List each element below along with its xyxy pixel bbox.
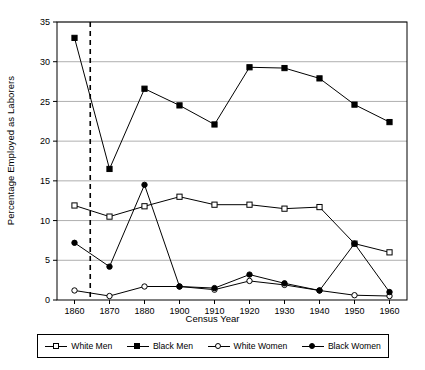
data-point: [247, 202, 252, 207]
series-line: [75, 185, 390, 292]
data-point: [247, 272, 252, 277]
legend-label-black-women: Black Women: [326, 341, 381, 351]
data-point: [317, 204, 322, 209]
legend-item-white-women: White Women: [208, 341, 288, 351]
data-point: [107, 293, 112, 298]
data-point: [352, 102, 357, 107]
data-point: [212, 202, 217, 207]
plot-frame: [57, 22, 407, 300]
y-tick-label: 15: [40, 176, 50, 186]
data-point: [107, 264, 112, 269]
legend-item-black-women: Black Women: [302, 341, 381, 351]
legend-marker-open-square-icon: [45, 341, 67, 351]
y-tick-label: 10: [40, 216, 50, 226]
data-point: [212, 285, 217, 290]
plot-area: 0510152025303518601870188019001910192019…: [0, 0, 425, 330]
data-point: [142, 204, 147, 209]
data-point: [72, 288, 77, 293]
chart-legend: White Men Black Men White Women Black Wo…: [37, 334, 389, 358]
y-tick-label: 5: [45, 255, 50, 265]
data-point: [142, 284, 147, 289]
data-point: [317, 76, 322, 81]
data-point: [142, 182, 147, 187]
chart-figure: Percentage Employed as Laborers 05101520…: [0, 0, 425, 370]
data-point: [177, 103, 182, 108]
y-tick-label: 25: [40, 97, 50, 107]
data-point: [352, 241, 357, 246]
data-point: [72, 240, 77, 245]
legend-marker-filled-circle-icon: [302, 341, 324, 351]
x-axis-label: Census Year: [0, 313, 425, 324]
data-point: [247, 278, 252, 283]
grid-lines: [57, 22, 407, 260]
data-point: [247, 65, 252, 70]
line-chart-svg: 0510152025303518601870188019001910192019…: [0, 0, 425, 330]
series-line: [75, 38, 390, 169]
y-axis-ticks: 05101520253035: [40, 17, 57, 305]
y-tick-label: 20: [40, 136, 50, 146]
data-point: [72, 203, 77, 208]
series-line: [75, 281, 390, 296]
data-point: [282, 65, 287, 70]
legend-item-white-men: White Men: [45, 341, 112, 351]
data-point: [142, 86, 147, 91]
data-point: [317, 288, 322, 293]
data-point: [387, 119, 392, 124]
data-point: [72, 35, 77, 40]
data-point: [282, 281, 287, 286]
x-axis-label-text: Census Year: [186, 313, 240, 324]
legend-marker-open-circle-icon: [208, 341, 230, 351]
data-point: [212, 122, 217, 127]
y-tick-label: 0: [45, 295, 50, 305]
y-tick-label: 35: [40, 17, 50, 27]
legend-label-white-women: White Women: [232, 341, 288, 351]
data-point: [352, 293, 357, 298]
data-point: [177, 194, 182, 199]
data-point: [177, 284, 182, 289]
legend-label-black-men: Black Men: [151, 341, 193, 351]
data-point: [107, 166, 112, 171]
data-point: [107, 214, 112, 219]
legend-item-black-men: Black Men: [127, 341, 193, 351]
legend-marker-filled-square-icon: [127, 341, 149, 351]
data-point: [282, 206, 287, 211]
data-point: [387, 289, 392, 294]
series-black-men: [72, 35, 392, 171]
series-white-men: [72, 194, 392, 255]
legend-label-white-men: White Men: [69, 341, 112, 351]
y-tick-label: 30: [40, 57, 50, 67]
data-point: [387, 250, 392, 255]
series-line: [75, 197, 390, 253]
series-black-women: [72, 182, 392, 295]
